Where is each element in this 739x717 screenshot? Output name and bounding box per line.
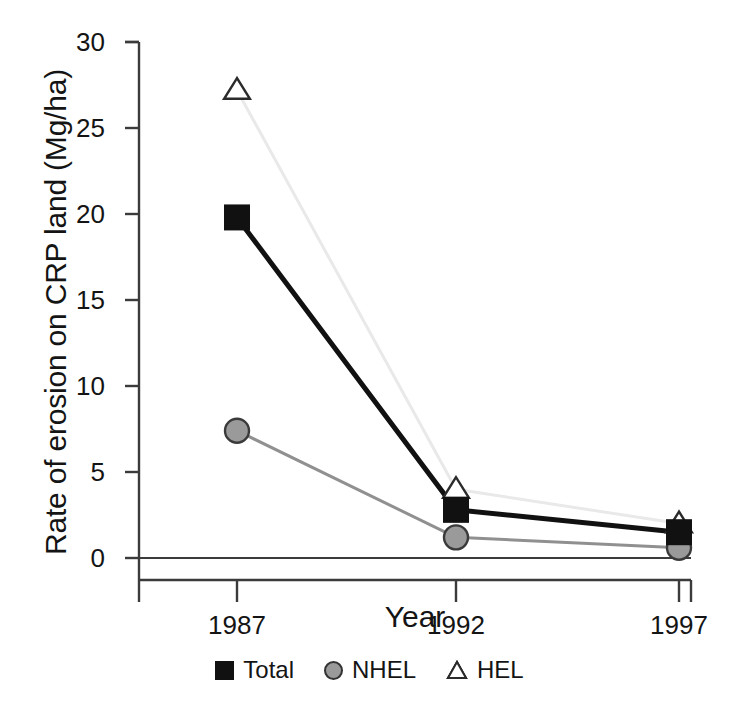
legend-label: HEL (477, 656, 524, 684)
y-tick-label: 20 (49, 201, 105, 227)
y-tick-label: 10 (49, 373, 105, 399)
legend-triangle-icon (446, 660, 468, 680)
legend-label: Total (243, 656, 294, 684)
y-tick-label: 0 (49, 545, 105, 571)
data-point-hel-1987[interactable] (224, 78, 250, 99)
legend-item-nhel[interactable]: NHEL (324, 656, 416, 684)
chart-legend: TotalNHELHEL (0, 656, 739, 684)
data-point-total-1992[interactable] (444, 498, 468, 522)
legend-label: NHEL (352, 656, 416, 684)
y-tick-label: 15 (49, 287, 105, 313)
data-point-hel-1992[interactable] (443, 477, 469, 498)
y-tick-label: 30 (49, 29, 105, 55)
legend-square-icon (215, 661, 234, 680)
data-point-total-1997[interactable] (667, 520, 691, 544)
y-tick-label: 5 (49, 459, 105, 485)
legend-item-hel[interactable]: HEL (446, 656, 524, 684)
y-tick-label: 25 (49, 115, 105, 141)
data-point-nhel-1992[interactable] (444, 525, 468, 549)
data-point-total-1987[interactable] (225, 205, 249, 229)
legend-circle-icon (324, 661, 343, 680)
data-point-nhel-1987[interactable] (225, 419, 249, 443)
legend-item-total[interactable]: Total (215, 656, 294, 684)
x-axis-title: Year (139, 600, 691, 634)
erosion-line-chart: Rate of erosion on CRP land (Mg/ha) 3025… (0, 0, 739, 717)
